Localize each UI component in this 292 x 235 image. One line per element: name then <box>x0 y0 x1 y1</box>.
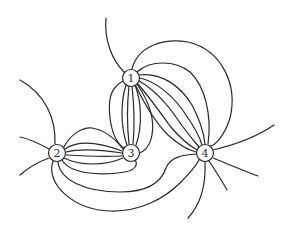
node-4-label: 4 <box>202 147 209 160</box>
edge-1-4-outer-arc <box>132 41 232 146</box>
edge-4-stub-right <box>213 125 274 150</box>
edge-2-3-top-bulge <box>64 128 123 149</box>
edge-1-3-right-loop <box>137 84 153 153</box>
node-2[interactable]: 2 <box>49 145 66 162</box>
nodes: 1 2 3 4 <box>49 70 214 162</box>
edge-1-3-inner-3 <box>132 86 134 144</box>
edge-4-stub-lower-right <box>213 158 258 176</box>
node-1[interactable]: 1 <box>123 70 140 87</box>
edge-1-4-arc-7 <box>136 86 196 152</box>
edge-2-3-arc-4 <box>66 155 122 156</box>
node-1-label: 1 <box>128 72 135 85</box>
edge-4-stub-down-right <box>209 161 227 190</box>
edge-1-3-inner-2 <box>128 86 130 144</box>
edge-2-4-lower-arc-2 <box>52 160 199 211</box>
graph-diagram: 1 2 3 4 <box>0 0 292 235</box>
node-3[interactable]: 3 <box>123 145 140 162</box>
edge-4-stub-down <box>188 162 205 218</box>
edge-2-stub-upper-left <box>20 80 55 144</box>
edges <box>20 18 274 218</box>
edge-1-stub-top <box>106 18 124 72</box>
edge-1-4-arc-5 <box>139 81 199 147</box>
node-2-label: 2 <box>54 147 61 160</box>
node-4[interactable]: 4 <box>197 145 214 162</box>
edge-2-3-arc-5 <box>64 158 123 164</box>
edge-1-3-inner-1 <box>122 85 127 145</box>
edge-2-3-arc-3 <box>66 150 122 153</box>
node-3-label: 3 <box>128 147 135 160</box>
edge-2-stub-left <box>20 137 49 149</box>
edge-2-stub-lower-left <box>20 158 49 175</box>
